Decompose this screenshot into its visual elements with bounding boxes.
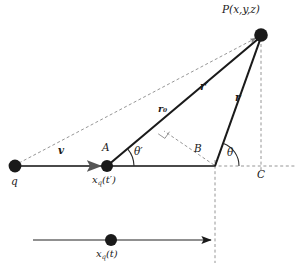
label-velocity-v: v [58, 145, 64, 156]
label-vector-r-zero: r₀ [158, 104, 167, 114]
right-angle-mark [158, 132, 169, 139]
point-marker-q [9, 160, 22, 173]
label-point-B: B [194, 143, 202, 154]
label-present-position: xq(t) [96, 249, 118, 260]
label-point-A: A [102, 142, 110, 153]
label-vector-r: r [235, 92, 241, 103]
vector-r [215, 40, 260, 166]
dashed-perpendicular-B-to-r-prime [164, 131, 214, 165]
point-marker-A [101, 160, 113, 172]
label-retarded-position: xq(t′) [92, 175, 116, 186]
label-point-C: C [257, 169, 265, 180]
label-angle-theta-prime: θ′ [134, 146, 143, 157]
label-vector-r-prime: r′ [200, 81, 208, 92]
figure-canvas: P(x,y,z) q A B C v θ θ′ r r′ r₀ xq(t′) x… [0, 0, 303, 269]
point-marker-xq-t [105, 234, 117, 246]
label-angle-theta: θ [227, 147, 233, 158]
diagram-svg [0, 0, 303, 269]
point-marker-P [254, 28, 268, 42]
label-point-P: P(x,y,z) [222, 4, 260, 15]
label-charge-q: q [11, 176, 18, 187]
